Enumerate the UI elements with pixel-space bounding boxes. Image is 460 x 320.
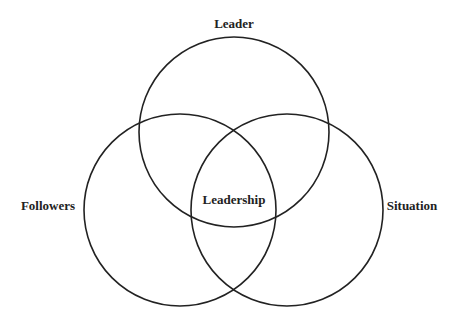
label-leader: Leader xyxy=(214,16,254,32)
label-followers: Followers xyxy=(21,198,75,214)
label-situation: Situation xyxy=(387,198,438,214)
venn-diagram xyxy=(0,0,460,320)
label-center-leadership: Leadership xyxy=(203,192,266,208)
